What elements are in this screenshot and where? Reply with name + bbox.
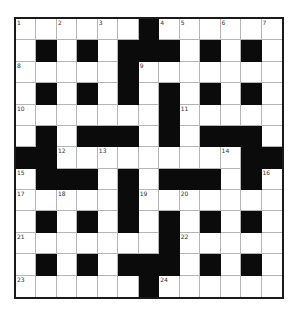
letter-cell[interactable]: 14 xyxy=(221,147,241,168)
letter-cell[interactable] xyxy=(98,169,118,190)
letter-cell[interactable]: 11 xyxy=(180,105,200,126)
letter-cell[interactable] xyxy=(98,233,118,254)
letter-cell[interactable] xyxy=(36,233,56,254)
letter-cell[interactable]: 22 xyxy=(180,233,200,254)
letter-cell[interactable] xyxy=(180,40,200,61)
letter-cell[interactable] xyxy=(262,83,282,104)
letter-cell[interactable] xyxy=(98,83,118,104)
letter-cell[interactable] xyxy=(241,276,261,297)
letter-cell[interactable] xyxy=(57,105,77,126)
letter-cell[interactable]: 17 xyxy=(16,190,36,211)
letter-cell[interactable] xyxy=(77,233,97,254)
letter-cell[interactable] xyxy=(241,233,261,254)
letter-cell[interactable] xyxy=(180,211,200,232)
letter-cell[interactable] xyxy=(118,276,138,297)
letter-cell[interactable] xyxy=(139,83,159,104)
letter-cell[interactable] xyxy=(77,147,97,168)
letter-cell[interactable] xyxy=(221,169,241,190)
letter-cell[interactable]: 16 xyxy=(262,169,282,190)
letter-cell[interactable]: 5 xyxy=(180,19,200,40)
letter-cell[interactable] xyxy=(139,126,159,147)
letter-cell[interactable]: 6 xyxy=(221,19,241,40)
letter-cell[interactable] xyxy=(16,40,36,61)
letter-cell[interactable]: 19 xyxy=(139,190,159,211)
letter-cell[interactable]: 24 xyxy=(159,276,179,297)
letter-cell[interactable] xyxy=(241,19,261,40)
letter-cell[interactable] xyxy=(180,126,200,147)
letter-cell[interactable] xyxy=(221,105,241,126)
letter-cell[interactable] xyxy=(159,62,179,83)
letter-cell[interactable] xyxy=(57,126,77,147)
letter-cell[interactable] xyxy=(57,62,77,83)
letter-cell[interactable] xyxy=(36,190,56,211)
letter-cell[interactable] xyxy=(77,19,97,40)
letter-cell[interactable] xyxy=(221,276,241,297)
letter-cell[interactable] xyxy=(221,233,241,254)
letter-cell[interactable] xyxy=(57,233,77,254)
letter-cell[interactable] xyxy=(98,211,118,232)
letter-cell[interactable]: 3 xyxy=(98,19,118,40)
letter-cell[interactable] xyxy=(36,62,56,83)
letter-cell[interactable] xyxy=(180,254,200,275)
letter-cell[interactable] xyxy=(200,233,220,254)
letter-cell[interactable] xyxy=(159,147,179,168)
letter-cell[interactable] xyxy=(262,254,282,275)
letter-cell[interactable]: 18 xyxy=(57,190,77,211)
letter-cell[interactable] xyxy=(180,62,200,83)
letter-cell[interactable] xyxy=(139,147,159,168)
letter-cell[interactable] xyxy=(77,105,97,126)
letter-cell[interactable] xyxy=(36,276,56,297)
letter-cell[interactable] xyxy=(98,254,118,275)
letter-cell[interactable] xyxy=(139,169,159,190)
letter-cell[interactable]: 7 xyxy=(262,19,282,40)
letter-cell[interactable] xyxy=(139,233,159,254)
letter-cell[interactable] xyxy=(98,62,118,83)
letter-cell[interactable] xyxy=(118,19,138,40)
letter-cell[interactable] xyxy=(221,83,241,104)
letter-cell[interactable] xyxy=(241,62,261,83)
letter-cell[interactable] xyxy=(262,276,282,297)
letter-cell[interactable]: 23 xyxy=(16,276,36,297)
letter-cell[interactable] xyxy=(98,190,118,211)
letter-cell[interactable] xyxy=(262,211,282,232)
letter-cell[interactable] xyxy=(98,105,118,126)
letter-cell[interactable]: 1 xyxy=(16,19,36,40)
letter-cell[interactable] xyxy=(262,105,282,126)
letter-cell[interactable] xyxy=(180,147,200,168)
letter-cell[interactable] xyxy=(262,233,282,254)
letter-cell[interactable]: 10 xyxy=(16,105,36,126)
letter-cell[interactable] xyxy=(241,190,261,211)
letter-cell[interactable] xyxy=(98,40,118,61)
letter-cell[interactable] xyxy=(16,83,36,104)
letter-cell[interactable] xyxy=(262,40,282,61)
letter-cell[interactable] xyxy=(221,40,241,61)
letter-cell[interactable] xyxy=(241,105,261,126)
letter-cell[interactable] xyxy=(139,211,159,232)
letter-cell[interactable]: 8 xyxy=(16,62,36,83)
letter-cell[interactable]: 20 xyxy=(180,190,200,211)
letter-cell[interactable] xyxy=(77,190,97,211)
letter-cell[interactable]: 13 xyxy=(98,147,118,168)
letter-cell[interactable] xyxy=(118,105,138,126)
letter-cell[interactable] xyxy=(57,254,77,275)
letter-cell[interactable] xyxy=(159,190,179,211)
letter-cell[interactable] xyxy=(200,190,220,211)
letter-cell[interactable] xyxy=(139,105,159,126)
letter-cell[interactable] xyxy=(77,62,97,83)
letter-cell[interactable]: 15 xyxy=(16,169,36,190)
letter-cell[interactable] xyxy=(221,62,241,83)
letter-cell[interactable] xyxy=(262,62,282,83)
letter-cell[interactable] xyxy=(16,211,36,232)
letter-cell[interactable] xyxy=(118,233,138,254)
letter-cell[interactable] xyxy=(221,190,241,211)
letter-cell[interactable] xyxy=(57,83,77,104)
letter-cell[interactable] xyxy=(36,105,56,126)
letter-cell[interactable] xyxy=(200,147,220,168)
letter-cell[interactable] xyxy=(77,276,97,297)
letter-cell[interactable] xyxy=(221,254,241,275)
letter-cell[interactable]: 4 xyxy=(159,19,179,40)
letter-cell[interactable] xyxy=(180,276,200,297)
letter-cell[interactable]: 9 xyxy=(139,62,159,83)
letter-cell[interactable] xyxy=(98,276,118,297)
letter-cell[interactable] xyxy=(16,126,36,147)
